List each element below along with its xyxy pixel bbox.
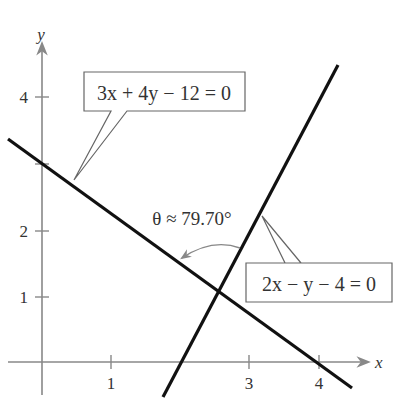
angle-label: θ ≈ 79.70° (152, 208, 231, 229)
y-tick-label-2: 2 (20, 222, 29, 241)
angle-arc (182, 245, 240, 258)
callout-label-line-2: 2x − y − 4 = 0 (262, 273, 376, 296)
callout-line-1: 3x + 4y − 12 = 0 (74, 72, 245, 180)
x-tick-label-3: 3 (245, 374, 254, 393)
line-2x-y-4 (163, 65, 338, 397)
figure-canvas: 1 3 4 1 2 4 x y θ ≈ 79.70° 3x + 4y − 12 … (0, 0, 407, 413)
callout-line-2: 2x − y − 4 = 0 (246, 216, 392, 302)
callout-label-line-1: 3x + 4y − 12 = 0 (97, 82, 231, 105)
x-axis-label: x (374, 353, 383, 372)
x-tick-label-1: 1 (107, 374, 116, 393)
y-tick-label-4: 4 (20, 88, 29, 107)
x-tick-label-4: 4 (315, 374, 324, 393)
y-tick-label-1: 1 (20, 288, 29, 307)
y-axis-label: y (35, 25, 45, 44)
